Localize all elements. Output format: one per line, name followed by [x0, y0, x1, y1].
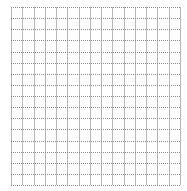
graph-paper-grid — [0, 0, 187, 191]
horizontal-lines — [11, 8, 180, 186]
